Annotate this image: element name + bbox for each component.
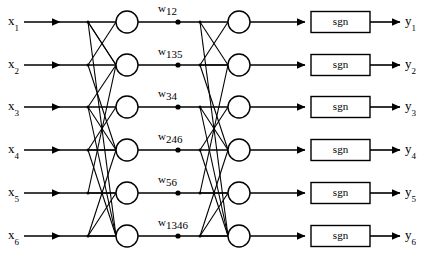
output-label-y5: y5 <box>405 184 416 202</box>
weight-label-w56: w56 <box>158 173 177 185</box>
output-label-base: y <box>405 227 412 242</box>
weight-label-subscript: 12 <box>166 5 177 17</box>
weight-dot <box>175 233 180 238</box>
input-label-subscript: 3 <box>15 108 20 118</box>
branch-junction-2 <box>199 192 202 195</box>
branch-junction-2 <box>199 235 202 238</box>
weight-label-symbol: w <box>158 2 166 14</box>
hidden-node-layer1 <box>116 139 138 161</box>
weight-label-subscript: 56 <box>166 176 177 188</box>
output-label-base: y <box>405 184 412 199</box>
weight-label-subscript: 246 <box>166 133 183 145</box>
output-label-base: y <box>405 141 412 156</box>
input-label-base: x <box>8 13 15 28</box>
input-label-base: x <box>8 184 15 199</box>
output-label-y6: y6 <box>405 227 416 245</box>
branch-junction-2 <box>199 64 202 67</box>
weight-dot <box>175 62 180 67</box>
input-label-x1: x1 <box>8 13 19 31</box>
weight-label-symbol: w <box>158 173 166 185</box>
weight-dot <box>175 19 180 24</box>
sgn-label: sgn <box>311 143 370 155</box>
input-label-subscript: 4 <box>15 151 20 161</box>
hidden-node-layer1 <box>116 11 138 33</box>
input-label-x2: x2 <box>8 56 19 74</box>
neural-network-diagram: x1x2x3x4x5x6y1y2y3y4y5y6w12w135w34w246w5… <box>0 0 426 256</box>
hidden-node-layer2 <box>228 96 250 118</box>
weight-label-w12: w12 <box>158 2 177 14</box>
hidden-node-layer2 <box>228 139 250 161</box>
branch-junction-1 <box>87 64 90 67</box>
weight-label-w246: w246 <box>158 130 182 142</box>
sgn-label: sgn <box>311 100 370 112</box>
input-label-x3: x3 <box>8 98 19 116</box>
branch-junction-2 <box>199 149 202 152</box>
input-label-subscript: 6 <box>15 237 20 247</box>
output-label-base: y <box>405 56 412 71</box>
input-label-x6: x6 <box>8 227 19 245</box>
branch-junction-2 <box>199 21 202 24</box>
weight-label-symbol: w <box>158 87 166 99</box>
weight-label-w34: w34 <box>158 87 177 99</box>
hidden-node-layer1 <box>116 96 138 118</box>
output-label-subscript: 1 <box>412 23 417 33</box>
input-label-subscript: 5 <box>15 194 20 204</box>
weight-label-symbol: w <box>158 130 166 142</box>
output-label-y2: y2 <box>405 56 416 74</box>
hidden-node-layer1 <box>116 182 138 204</box>
weight-dot <box>175 147 180 152</box>
input-label-subscript: 1 <box>15 23 20 33</box>
input-label-base: x <box>8 56 15 71</box>
input-label-subscript: 2 <box>15 66 20 76</box>
output-label-subscript: 4 <box>412 151 417 161</box>
hidden-node-layer1 <box>116 54 138 76</box>
hidden-node-layer1 <box>116 225 138 247</box>
output-label-y1: y1 <box>405 13 416 31</box>
input-label-x4: x4 <box>8 141 19 159</box>
weight-dot <box>175 190 180 195</box>
input-label-base: x <box>8 141 15 156</box>
branch-junction-1 <box>87 149 90 152</box>
branch-junction-1 <box>87 192 90 195</box>
output-label-base: y <box>405 13 412 28</box>
network-canvas <box>0 0 426 256</box>
branch-junction-2 <box>199 106 202 109</box>
branch-junction-1 <box>87 106 90 109</box>
weight-label-w135: w135 <box>158 45 182 57</box>
weight-label-subscript: 1346 <box>166 219 188 231</box>
sgn-label: sgn <box>311 229 370 241</box>
hidden-node-layer2 <box>228 182 250 204</box>
output-label-y4: y4 <box>405 141 416 159</box>
output-label-subscript: 5 <box>412 194 417 204</box>
hidden-node-layer2 <box>228 54 250 76</box>
weight-label-subscript: 135 <box>166 48 183 60</box>
output-label-y3: y3 <box>405 98 416 116</box>
sgn-label: sgn <box>311 58 370 70</box>
weight-label-subscript: 34 <box>166 90 177 102</box>
output-label-subscript: 2 <box>412 66 417 76</box>
input-label-base: x <box>8 98 15 113</box>
hidden-node-layer2 <box>228 225 250 247</box>
weight-dot <box>175 104 180 109</box>
branch-junction-1 <box>87 21 90 24</box>
sgn-label: sgn <box>311 15 370 27</box>
sgn-label: sgn <box>311 186 370 198</box>
weight-label-symbol: w <box>158 216 166 228</box>
output-label-subscript: 3 <box>412 108 417 118</box>
branch-junction-1 <box>87 235 90 238</box>
input-label-base: x <box>8 227 15 242</box>
input-label-x5: x5 <box>8 184 19 202</box>
weight-label-symbol: w <box>158 45 166 57</box>
hidden-node-layer2 <box>228 11 250 33</box>
output-label-subscript: 6 <box>412 237 417 247</box>
weight-label-w1346: w1346 <box>158 216 188 228</box>
output-label-base: y <box>405 98 412 113</box>
